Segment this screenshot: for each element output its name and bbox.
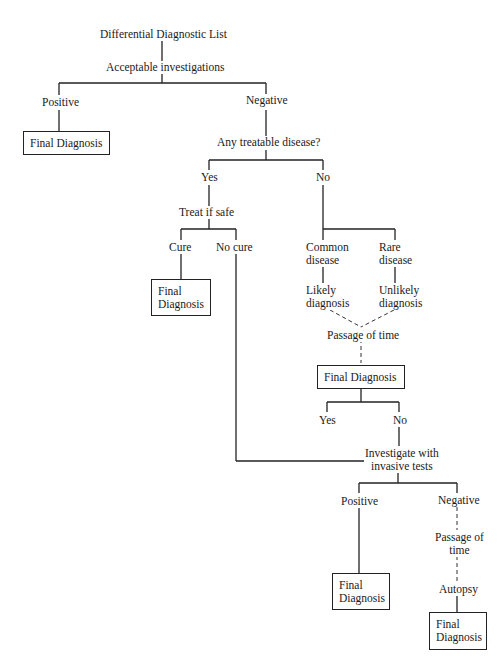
label-fd3-no: No — [392, 414, 408, 427]
label-inv-negative: Negative — [437, 494, 481, 507]
question-any-treatable-disease: Any treatable disease? — [216, 136, 321, 149]
node-passage-of-time: Passage of time — [326, 329, 400, 342]
label-fd3-yes: Yes — [318, 414, 337, 427]
node-likely-diagnosis: Likely diagnosis — [305, 284, 350, 310]
final-diagnosis-box-4: Final Diagnosis — [332, 573, 390, 610]
label-cure: Cure — [168, 241, 192, 254]
node-passage-of-time-2: Passage of time — [434, 531, 485, 557]
node-treat-if-safe: Treat if safe — [178, 206, 235, 219]
node-acceptable-investigations: Acceptable investigations — [105, 61, 225, 74]
node-unlikely-diagnosis: Unlikely diagnosis — [378, 284, 423, 310]
final-diagnosis-box-5: Final Diagnosis — [429, 612, 487, 650]
node-autopsy: Autopsy — [438, 583, 479, 596]
node-investigate-invasive-tests: Investigate with invasive tests — [364, 447, 440, 473]
final-diagnosis-box-3: Final Diagnosis — [317, 365, 405, 389]
label-no-cure: No cure — [215, 241, 254, 254]
node-common-disease: Common disease — [305, 241, 350, 267]
root-node-differential-diagnostic-list: Differential Diagnostic List — [99, 28, 228, 41]
label-yes: Yes — [200, 171, 219, 184]
node-rare-disease: Rare disease — [378, 241, 413, 267]
label-positive: Positive — [41, 96, 80, 109]
label-no: No — [315, 171, 331, 184]
final-diagnosis-box-2: Final Diagnosis — [151, 279, 211, 316]
final-diagnosis-box-1: Final Diagnosis — [23, 131, 110, 155]
label-inv-positive: Positive — [340, 495, 379, 508]
label-negative: Negative — [245, 94, 289, 107]
